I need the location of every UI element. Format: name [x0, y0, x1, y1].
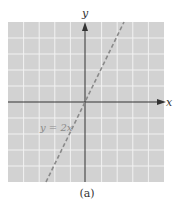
- line-label: y = 2x: [39, 122, 73, 133]
- coordinate-plane: y x y = 2x: [0, 0, 174, 207]
- figure-caption: (a): [0, 187, 174, 200]
- y-axis-label: y: [81, 7, 89, 20]
- x-axis-label: x: [166, 96, 173, 109]
